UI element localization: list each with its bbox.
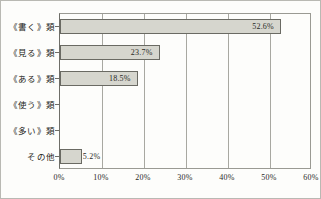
category-label: 《多い》類 [1,124,55,136]
category-label: 《使う》類 [1,98,55,110]
category-label: その他 [1,150,55,162]
y-axis-tick [55,52,59,53]
y-axis-tick [55,26,59,27]
x-tick-label: 40% [219,173,234,182]
bar: 5.2% [60,149,82,164]
bar-value-label: 52.6% [252,22,274,31]
bar-value-label: 5.2% [83,152,100,161]
chart-figure: 52.6%23.7%18.5%5.2% 《書く》類《見る》類《ある》類《使う》類… [0,0,321,199]
bar-row: 5.2% [60,143,311,169]
x-tick-label: 0% [53,173,64,182]
y-axis-tick [55,156,59,157]
bar-row: 18.5% [60,65,311,91]
y-axis-tick [55,130,59,131]
bar-row: 23.7% [60,39,311,65]
x-tick-label: 30% [177,173,192,182]
bar-row [60,117,311,143]
category-label: 《ある》類 [1,72,55,84]
category-label: 《見る》類 [1,46,55,58]
category-label: 《書く》類 [1,20,55,32]
x-tick-label: 20% [135,173,150,182]
y-axis-tick [55,78,59,79]
bar-value-label: 23.7% [131,48,153,57]
bar-row: 52.6% [60,13,311,39]
bar-value-label: 18.5% [109,74,131,83]
bar-row [60,91,311,117]
y-axis-tick [55,104,59,105]
bar: 18.5% [60,71,138,86]
x-tick-label: 10% [93,173,108,182]
bar: 23.7% [60,45,160,60]
x-tick-label: 60% [303,173,318,182]
x-tick-label: 50% [261,173,276,182]
bar: 52.6% [60,19,281,34]
